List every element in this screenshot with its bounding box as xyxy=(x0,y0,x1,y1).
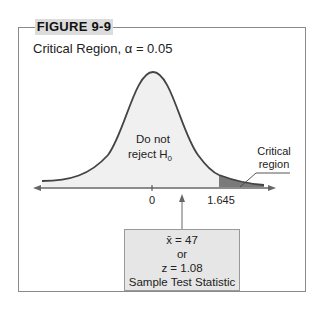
or-text: or xyxy=(125,247,239,261)
xbar-value: x̄ = 47 xyxy=(125,233,239,247)
axis-arrow-left xyxy=(33,185,41,191)
test-statistic-box: x̄ = 47 or z = 1.08 Sample Test Statisti… xyxy=(124,229,240,291)
z-value: z = 1.08 xyxy=(125,261,239,275)
acceptance-label-line1: Do not xyxy=(136,133,171,145)
test-statistic-caption: Sample Test Statistic xyxy=(125,275,239,289)
tick-label-0: 0 xyxy=(149,194,155,206)
axis-arrow-right xyxy=(268,185,276,191)
critical-label-line1: Critical xyxy=(257,145,291,157)
tick-label-1645: 1.645 xyxy=(207,194,235,206)
critical-label-line2: region xyxy=(259,158,290,170)
test-statistic-arrowhead xyxy=(179,194,185,202)
acceptance-region xyxy=(42,72,219,187)
